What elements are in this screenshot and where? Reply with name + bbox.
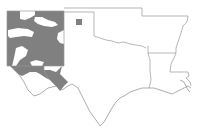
west-texas-shaded [10,66,68,91]
louisiana-east-border [170,53,191,86]
gulf-coastline [100,86,191,126]
map-canvas [0,0,202,138]
panhandle-county-shaded [76,19,82,25]
new-mexico-region [7,11,64,66]
arkansas-border [142,16,188,53]
red-river-border [94,36,146,48]
louisiana-texas-border [148,53,151,88]
